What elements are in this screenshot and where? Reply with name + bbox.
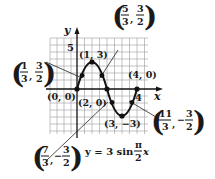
svg-text:,: , xyxy=(29,70,32,82)
svg-text:3: 3 xyxy=(63,144,70,155)
svg-text:): ) xyxy=(70,141,83,174)
label-1-3: (1, 3) xyxy=(79,49,108,61)
point-2-0 xyxy=(104,86,109,91)
x-tick-4: 4 xyxy=(135,92,142,103)
svg-text:3: 3 xyxy=(42,157,49,168)
svg-text:2: 2 xyxy=(135,152,142,163)
axes xyxy=(46,30,160,138)
label-11-3-neg3-2: ( 11 3 , − 3 2 ) xyxy=(151,105,206,138)
svg-text:): ) xyxy=(144,0,157,33)
svg-text:π: π xyxy=(135,139,142,150)
svg-text:3: 3 xyxy=(137,3,144,14)
svg-text:3: 3 xyxy=(186,108,193,119)
label-4-0: (4, 0) xyxy=(128,69,157,81)
svg-text:): ) xyxy=(43,57,56,90)
svg-text:2: 2 xyxy=(63,157,70,168)
svg-text:5: 5 xyxy=(122,3,129,14)
svg-text:x: x xyxy=(142,146,150,157)
svg-text:3: 3 xyxy=(122,16,129,27)
x-axis-label: x xyxy=(153,90,161,103)
svg-text:7: 7 xyxy=(42,144,49,155)
label-1-3-3-2: ( 1 3 , 3 2 ) xyxy=(11,57,56,90)
y-axis-arrow-icon xyxy=(75,27,80,34)
label-7-3-neg3-2: ( 7 3 , − 3 2 ) xyxy=(32,141,83,174)
svg-text:,: , xyxy=(172,118,175,130)
label-5-3-3-2: ( 5 3 , 3 2 ) xyxy=(112,0,157,33)
point-1-3 xyxy=(89,59,94,64)
label-2-0: (2, 0) xyxy=(78,97,107,109)
svg-text:): ) xyxy=(193,105,206,138)
svg-text:,: , xyxy=(130,13,133,25)
sine-graph: y x 5 4 (0, 0) (1, 3) (2, 0) (3, −3) (4,… xyxy=(0,0,215,179)
point-1-3-3-2 xyxy=(80,73,85,78)
equation-label: y = 3 sin π 2 x xyxy=(84,139,150,163)
label-3-neg3: (3, −3) xyxy=(104,118,141,130)
svg-text:2: 2 xyxy=(137,16,144,27)
svg-text:1: 1 xyxy=(21,60,28,71)
svg-text:,: , xyxy=(50,154,53,166)
svg-text:3: 3 xyxy=(36,60,43,71)
svg-text:3: 3 xyxy=(162,121,169,132)
y-axis-label: y xyxy=(63,24,72,37)
svg-text:2: 2 xyxy=(36,73,43,84)
point-11-3-neg3-2 xyxy=(130,100,135,105)
y-tick-5: 5 xyxy=(67,42,74,53)
svg-text:3: 3 xyxy=(21,73,28,84)
svg-text:2: 2 xyxy=(186,121,193,132)
svg-text:11: 11 xyxy=(159,108,172,119)
point-7-3-neg3-2 xyxy=(110,100,115,105)
point-4-0 xyxy=(134,86,139,91)
point-5-3-3-2 xyxy=(100,73,105,78)
svg-text:−: − xyxy=(54,150,62,161)
label-0-0: (0, 0) xyxy=(47,91,76,103)
svg-text:−: − xyxy=(177,114,185,125)
svg-text:y = 3 sin: y = 3 sin xyxy=(84,146,134,157)
